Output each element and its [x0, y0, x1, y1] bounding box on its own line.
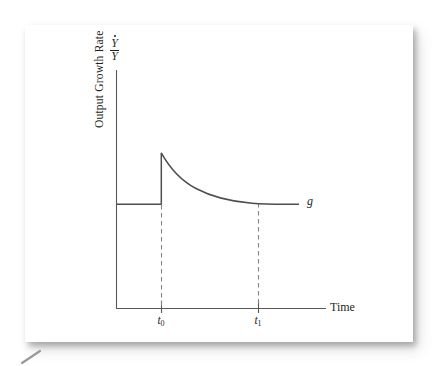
x-tick-label-t1: t1	[254, 314, 261, 326]
y-axis-title: Output Growth Rate	[94, 30, 106, 128]
x-tick-label-t0-sub: 0	[161, 319, 165, 328]
curve-label-g: g	[307, 195, 313, 207]
y-axis-symbol-numerator: Y	[110, 38, 119, 49]
stray-pencil-mark	[22, 351, 40, 363]
x-tick-label-t0: t0	[157, 314, 164, 326]
y-axis-symbol-denominator: Y	[110, 51, 119, 62]
y-axis-growth-symbol: Y Y	[110, 38, 119, 62]
x-tick-label-t1-sub: 1	[258, 319, 262, 328]
x-axis-title: Time	[330, 301, 355, 313]
page-sheet	[25, 25, 413, 342]
figure-root: Output Growth Rate Y Y Time g t0 t1	[0, 0, 447, 366]
